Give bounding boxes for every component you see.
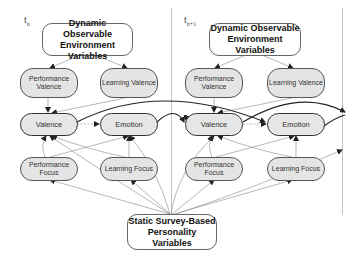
node-label: Learning Focus (272, 165, 320, 173)
performance-valence-node-n: PerformanceValence (20, 68, 78, 98)
node-label: Performance (194, 161, 234, 168)
learning-valence-node-n: Learning Valence (100, 68, 158, 98)
learning-valence-node-n1: Learning Valence (267, 68, 325, 98)
node-label: Static Survey-Based (128, 216, 215, 226)
edge-perffocus-emo-n1 (216, 136, 294, 157)
learning-focus-node-n: Learning Focus (100, 157, 158, 181)
emotion-node-n: Emotion (100, 113, 158, 136)
edge-learnval-val-n (52, 98, 125, 113)
node-label: Performance (194, 75, 234, 82)
node-label: Emotion (115, 120, 143, 129)
time-label-subscript: n+1 (187, 21, 196, 27)
performance-focus-node-n: PerformanceFocus (20, 157, 78, 181)
dynamic-env-node-n: Dynamic ObservableEnvironment Variables (42, 23, 133, 56)
node-label: Environment Variables (227, 34, 282, 55)
static-personality-node: Static Survey-BasedPersonality Variables (127, 214, 217, 250)
performance-focus-node-n1: PerformanceFocus (185, 157, 243, 181)
edge-emo-n1-to-next (324, 115, 345, 126)
node-label: Focus (39, 169, 58, 176)
edge-perffocus-emo-n (50, 136, 128, 157)
node-label: Valence (202, 83, 227, 90)
edge-static-perffocus-n (50, 180, 170, 214)
edge-static-learnfocus-n (131, 180, 170, 214)
node-label: Performance (29, 161, 69, 168)
node-label: Valence (37, 83, 62, 90)
node-label: Valence (201, 120, 228, 129)
valence-node-n: Valence (20, 113, 78, 136)
edge-perffocus-val-n (43, 136, 46, 157)
time-label-subscript: n (27, 21, 30, 27)
valence-node-n1: Valence (185, 113, 243, 136)
dynamic-env-node-n1: Dynamic ObservableEnvironment Variables (209, 23, 301, 56)
node-label: Learning Valence (269, 79, 323, 87)
node-label: Learning Valence (102, 79, 156, 87)
node-label: Emotion (282, 120, 310, 129)
emotion-node-n1: Emotion (267, 113, 325, 136)
edge-dyn-perfval-n1 (215, 55, 246, 68)
time-label-n: tn (24, 14, 30, 27)
edge-dyn-learnval-n1 (262, 55, 293, 68)
node-label: Dynamic Observable (210, 23, 299, 33)
edge-static-perffocus-n1 (172, 180, 214, 214)
node-label: Personality Variables (148, 227, 197, 248)
performance-valence-node-n1: PerformanceValence (185, 68, 243, 98)
node-label: Performance (29, 75, 69, 82)
node-label: Dynamic Observable (63, 18, 112, 39)
node-label: Environment Variables (60, 40, 115, 61)
node-label: Focus (204, 169, 223, 176)
edge-emo-n-to-val-n1 (157, 114, 184, 123)
learning-focus-node-n1: Learning Focus (267, 157, 325, 181)
node-label: Learning Focus (105, 165, 153, 173)
time-label-n1: tn+1 (184, 14, 196, 27)
node-label: Valence (36, 120, 63, 129)
